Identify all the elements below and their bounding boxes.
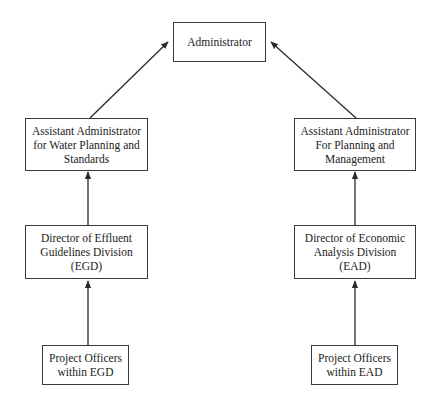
node-director-egd: Director of Effluent Guidelines Division… xyxy=(25,225,148,279)
node-label: Assistant Administrator xyxy=(301,124,410,138)
node-project-officers-ead: Project Officers within EAD xyxy=(311,345,398,385)
node-label: Analysis Division xyxy=(314,245,397,259)
node-label: For Planning and xyxy=(315,138,394,152)
node-assistant-administrator-planning: Assistant Administrator For Planning and… xyxy=(294,118,416,171)
node-label: within EGD xyxy=(58,365,114,379)
node-label: (EGD) xyxy=(71,259,102,273)
node-assistant-administrator-water: Assistant Administrator for Water Planni… xyxy=(25,118,148,171)
node-director-ead: Director of Economic Analysis Division (… xyxy=(294,225,416,279)
node-label: (EAD) xyxy=(339,259,370,273)
node-label: Director of Effluent xyxy=(41,231,132,245)
arrow-aa-planning-to-administrator xyxy=(271,42,356,118)
node-label: Management xyxy=(325,152,385,166)
node-label: Project Officers xyxy=(318,351,391,365)
node-label: Standards xyxy=(64,152,109,166)
node-label: Assistant Administrator xyxy=(32,124,141,138)
node-label: Guidelines Division xyxy=(40,245,132,259)
node-label: for Water Planning and xyxy=(33,138,140,152)
org-chart-diagram: Administrator Assistant Administrator fo… xyxy=(0,0,436,408)
node-administrator: Administrator xyxy=(173,22,266,62)
node-project-officers-egd: Project Officers within EGD xyxy=(42,345,129,385)
node-label: within EAD xyxy=(327,365,383,379)
node-label: Administrator xyxy=(187,35,252,49)
node-label: Director of Economic xyxy=(305,231,405,245)
node-label: Project Officers xyxy=(49,351,122,365)
arrow-aa-water-to-administrator xyxy=(90,42,168,118)
